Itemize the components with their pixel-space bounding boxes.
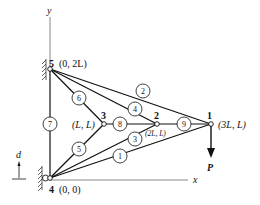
node-4-number: 4 (49, 184, 54, 195)
node-5-number: 5 (49, 58, 54, 69)
svg-text:7: 7 (48, 120, 52, 129)
node-2 (155, 122, 160, 127)
x-axis-label: x (192, 174, 198, 185)
element-label-3: 3 (128, 132, 142, 146)
svg-text:8: 8 (118, 120, 122, 129)
node-1-number: 1 (207, 110, 212, 121)
svg-text:9: 9 (182, 120, 186, 129)
element-label-6: 6 (72, 91, 86, 105)
support-node-5 (42, 59, 46, 80)
element-label-1: 1 (113, 149, 127, 163)
member-3 (50, 124, 157, 178)
node-4-coord: (0, 0) (59, 184, 81, 196)
node-2-number: 2 (154, 110, 159, 121)
svg-text:4: 4 (133, 105, 137, 114)
node-3-number: 3 (101, 110, 106, 121)
svg-text:3: 3 (133, 135, 137, 144)
load-arrow-icon (207, 126, 215, 158)
svg-text:6: 6 (77, 94, 81, 103)
truss-diagram: y x 1 2 3 4 5 6 (0, 0, 260, 205)
node-3-coord: (L, L) (72, 119, 95, 131)
node-5-coord: (0, 2L) (59, 58, 87, 70)
load-label: P (207, 162, 214, 173)
element-label-8: 8 (113, 117, 127, 131)
node-4 (48, 176, 53, 181)
element-label-9: 9 (177, 117, 191, 131)
element-label-5: 5 (72, 142, 86, 156)
node-1-coord: (3L, L) (218, 119, 246, 131)
svg-text:2: 2 (141, 87, 145, 96)
svg-text:1: 1 (118, 152, 122, 161)
node-3 (102, 122, 107, 127)
node-2-coord: (2L, L) (145, 129, 166, 138)
element-label-2: 2 (136, 84, 150, 98)
node-1 (209, 122, 214, 127)
element-label-4: 4 (128, 102, 142, 116)
displacement-arrow-icon (12, 161, 26, 179)
svg-text:5: 5 (77, 145, 81, 154)
element-label-7: 7 (43, 117, 57, 131)
y-axis-label: y (46, 5, 52, 16)
support-node-4 (38, 166, 49, 191)
displacement-label: d (16, 149, 22, 160)
